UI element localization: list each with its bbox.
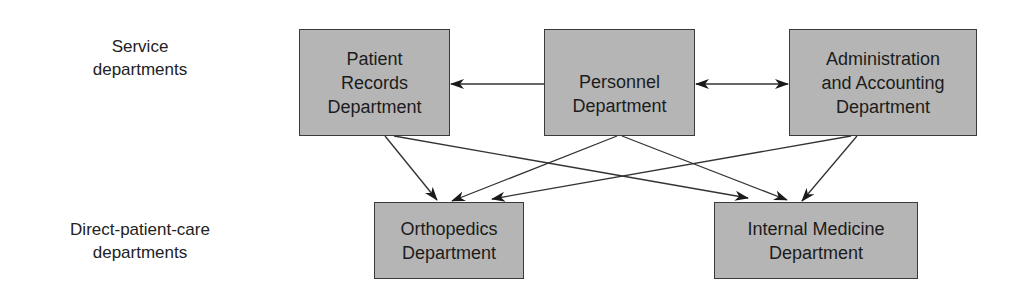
internal-medicine-department-label: Internal Medicine Department	[747, 217, 884, 265]
arrow-patient-records-to-internal-medicine	[394, 136, 748, 198]
orthopedics-department-node: Orthopedics Department	[374, 202, 524, 279]
patient-records-department-label: Patient Records Department	[327, 47, 421, 119]
patient-records-department-node: Patient Records Department	[299, 29, 450, 136]
administration-accounting-department-label: Administration and Accounting Department	[821, 47, 944, 119]
arrow-admin-to-internal-medicine	[802, 136, 857, 201]
administration-accounting-department-node: Administration and Accounting Department	[789, 29, 977, 136]
personnel-department-node: Personnel Department	[544, 29, 695, 136]
orthopedics-department-label: Orthopedics Department	[400, 217, 497, 265]
personnel-department-label: Personnel Department	[572, 48, 666, 118]
internal-medicine-department-node: Internal Medicine Department	[714, 202, 918, 279]
arrow-admin-to-orthopedics	[492, 136, 851, 199]
arrow-patient-records-to-orthopedics	[385, 136, 437, 200]
